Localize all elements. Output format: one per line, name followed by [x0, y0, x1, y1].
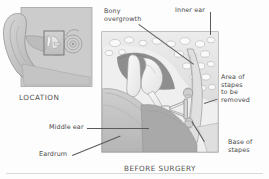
main-panel [101, 31, 219, 153]
leader-inner-ear [210, 12, 211, 35]
bottom-divider [6, 173, 263, 174]
label-inner-ear: Inner ear [175, 7, 205, 15]
location-caption: LOCATION [19, 93, 59, 102]
stapes-footplate [184, 99, 187, 119]
label-middle-ear: Middle ear [49, 124, 84, 132]
location-panel [2, 6, 94, 88]
cochlea-spiral [64, 35, 82, 53]
leader-middle-ear [87, 128, 149, 129]
label-eardrum: Eardrum [39, 151, 67, 159]
label-area-of-stapes: Area of stapes to be removed [221, 74, 250, 104]
figure-root: LOCATION [0, 0, 269, 179]
label-base-of-stapes: Base of stapes [228, 139, 252, 154]
malleus [127, 55, 141, 97]
ear-profile-illustration [2, 6, 94, 88]
middle-inner-ear-cross-section [101, 31, 219, 153]
label-bony-overgrowth: Bony overgrowth [104, 8, 141, 23]
